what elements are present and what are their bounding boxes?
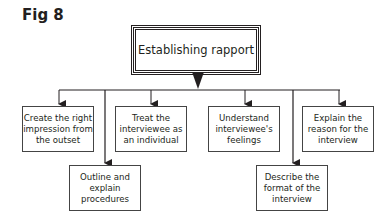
root-arrow-icon <box>192 72 204 89</box>
node-treat-individual: Treat the interviewee as an individual <box>115 106 187 152</box>
root-node-establishing-rapport: Establishing rapport <box>133 27 259 73</box>
node-outline-procedures: Outline and explain procedures <box>69 165 141 211</box>
node-understand-feelings: Understand interviewee's feelings <box>208 106 280 152</box>
node-describe-format: Describe the format of the interview <box>256 165 328 211</box>
figure-label: Fig 8 <box>22 6 64 24</box>
node-create-impression: Create the right impression from the out… <box>22 106 94 152</box>
node-explain-reason: Explain the reason for the interview <box>302 106 374 152</box>
